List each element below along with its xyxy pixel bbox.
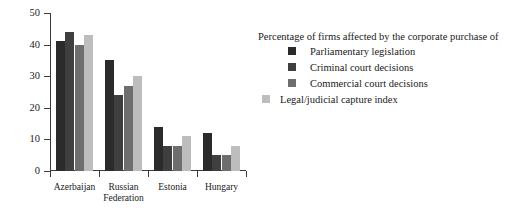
- y-axis-tick-label: 0: [35, 166, 40, 176]
- bar: [124, 86, 133, 171]
- y-axis-tick-mark: [44, 76, 50, 77]
- legend-color-swatch: [288, 79, 296, 87]
- legend-item: Parliamentary legislation: [258, 43, 508, 59]
- legend-color-swatch: [288, 63, 296, 71]
- x-axis-tick-mark: [99, 171, 100, 177]
- x-axis-category-label: Hungary: [191, 182, 252, 193]
- bar: [133, 76, 142, 171]
- legend-entries: Parliamentary legislationCriminal court …: [258, 43, 508, 107]
- bar-group: [148, 13, 197, 171]
- bar: [154, 127, 163, 171]
- legend-item: Commercial court decisions: [258, 75, 508, 91]
- legend-item-label: Commercial court decisions: [310, 77, 428, 90]
- plot-area: 01020304050 AzerbaijanRussian Federation…: [0, 0, 254, 219]
- x-axis-tick-mark: [148, 171, 149, 177]
- legend-title: Percentage of firms affected by the corp…: [258, 30, 508, 43]
- bar: [105, 60, 114, 171]
- bar: [212, 155, 221, 171]
- legend-item-label: Parliamentary legislation: [310, 45, 415, 58]
- legend-item: Legal/judicial capture index: [258, 91, 508, 107]
- legend: Percentage of firms affected by the corp…: [258, 30, 508, 107]
- bar: [231, 146, 240, 171]
- x-axis-category-labels: AzerbaijanRussian FederationEstoniaHunga…: [50, 182, 250, 216]
- y-axis-tick-label: 20: [30, 103, 41, 113]
- y-axis-tick-mark: [44, 139, 50, 140]
- legend-color-swatch: [262, 95, 270, 103]
- bar: [173, 146, 182, 171]
- y-axis-tick-label: 40: [30, 40, 41, 50]
- y-axis-tick-mark: [44, 108, 50, 109]
- x-axis-tick-mark: [246, 171, 247, 177]
- bar-group: [197, 13, 246, 171]
- bar: [84, 35, 93, 171]
- y-axis-tick-mark: [44, 45, 50, 46]
- bar: [222, 155, 231, 171]
- bar: [75, 45, 84, 171]
- bar: [203, 133, 212, 171]
- chart-page: 01020304050 AzerbaijanRussian Federation…: [0, 0, 508, 219]
- bar: [65, 32, 74, 171]
- bar: [56, 41, 65, 171]
- legend-item-label: Criminal court decisions: [310, 61, 413, 74]
- bar: [163, 146, 172, 171]
- y-axis-tick-label: 10: [30, 134, 41, 144]
- y-axis-tick-label: 30: [30, 71, 41, 81]
- legend-item: Criminal court decisions: [258, 59, 508, 75]
- y-axis-tick-labels: 01020304050: [8, 0, 40, 185]
- y-axis-tick-label: 50: [30, 8, 41, 18]
- bar: [182, 136, 191, 171]
- bar-group: [99, 13, 148, 171]
- x-axis-tick-mark: [50, 171, 51, 177]
- y-axis-tick-mark: [44, 13, 50, 14]
- bars-layer: [50, 13, 246, 171]
- legend-color-swatch: [288, 47, 296, 55]
- bar-group: [50, 13, 99, 171]
- legend-item-label: Legal/judicial capture index: [280, 93, 398, 106]
- x-axis-tick-mark: [197, 171, 198, 177]
- bar: [114, 95, 123, 171]
